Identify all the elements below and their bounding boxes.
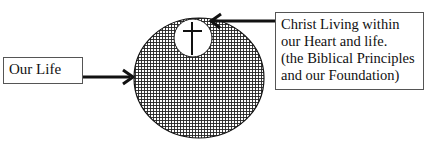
diagram-canvas: Our Life Christ Living within our Heart … [0, 0, 426, 142]
our-life-label: Our Life [9, 61, 82, 78]
christ-label-line-4: and our Foundation) [281, 67, 423, 84]
christ-label-line-2: our Heart and life. [281, 33, 423, 50]
our-life-label-box: Our Life [3, 57, 83, 84]
christ-label-line-1: Christ Living within [281, 16, 423, 33]
christ-label-line-3: (the Biblical Principles [281, 50, 423, 67]
christ-label-box: Christ Living within our Heart and life.… [275, 12, 424, 90]
arrow-to-life-circle [83, 70, 133, 84]
